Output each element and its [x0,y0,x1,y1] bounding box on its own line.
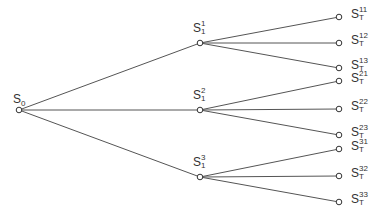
node-S0 [16,107,22,113]
label-ST_32: S32T [351,167,368,181]
label-S1_2: S21 [193,89,205,103]
edge-S1_2-ST_21 [200,81,339,110]
node-S1_2 [197,107,203,113]
label-ST_12: S12T [351,34,368,48]
label-S1_3: S31 [193,156,205,170]
node-ST_13 [336,65,342,71]
tree-diagram [0,0,378,220]
edge-S1_2-ST_23 [200,110,339,135]
label-ST_33: S33T [351,193,368,207]
node-ST_22 [336,106,342,112]
label-ST_21: S21T [351,72,368,86]
edge-S1_2-ST_22 [200,109,339,110]
node-ST_23 [336,132,342,138]
edge-S1_3-ST_33 [200,177,339,202]
label-S0: S0 [13,93,25,108]
edge-S1_3-ST_32 [200,176,339,177]
label-ST_11: S11T [351,8,367,22]
edge-S0-S1_1 [19,43,200,110]
label-ST_31: S31T [351,140,368,154]
label-S1_1: S11 [193,22,205,36]
node-ST_12 [336,40,342,46]
node-ST_11 [336,14,342,20]
edge-S1_1-ST_13 [200,43,339,68]
label-ST_22: S22T [351,100,368,114]
edge-S1_1-ST_11 [200,17,339,43]
node-ST_31 [336,146,342,152]
edge-S1_3-ST_31 [200,149,339,177]
edge-S0-S1_3 [19,110,200,177]
node-ST_33 [336,199,342,205]
node-ST_21 [336,78,342,84]
node-ST_32 [336,173,342,179]
node-S1_1 [197,40,203,46]
node-S1_3 [197,174,203,180]
